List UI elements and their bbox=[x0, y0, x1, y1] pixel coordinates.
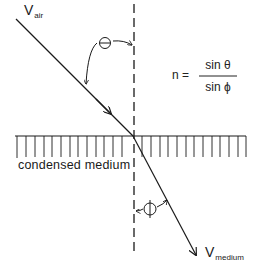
incident-velocity-label: Vair bbox=[24, 1, 43, 19]
theta-arc-left-icon bbox=[86, 43, 97, 84]
refraction-diagram bbox=[0, 0, 258, 264]
phi-symbol-icon bbox=[144, 200, 156, 218]
formula-numerator: sin θ bbox=[199, 58, 237, 72]
medium-hatching bbox=[17, 136, 246, 158]
incident-ray bbox=[16, 19, 133, 136]
incident-velocity-main: V bbox=[24, 2, 33, 18]
incident-ray-arrow-icon bbox=[96, 99, 111, 114]
refracted-velocity-label: Vmedium bbox=[205, 243, 244, 261]
phi-arc-left-icon bbox=[136, 209, 143, 211]
refracted-ray bbox=[133, 136, 196, 255]
theta-symbol-icon bbox=[100, 38, 111, 49]
medium-label: condensed medium bbox=[18, 158, 130, 172]
incident-velocity-sub: air bbox=[34, 11, 43, 20]
refracted-velocity-sub: medium bbox=[215, 253, 243, 262]
phi-arc-right-icon bbox=[157, 200, 167, 207]
theta-arc-right-icon bbox=[113, 41, 132, 45]
refracted-velocity-main: V bbox=[205, 244, 214, 260]
formula-denominator: sin ϕ bbox=[199, 80, 237, 94]
formula-lhs: n = bbox=[172, 68, 189, 82]
